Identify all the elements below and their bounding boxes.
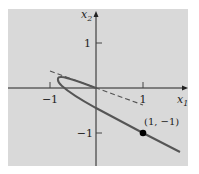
y-tick-label-1: 1 [84,37,91,50]
phase-plot: −1 1 1 −1 x2 x1 (1, −1) [0,0,199,174]
y-tick-label-neg1: −1 [77,127,93,140]
x-tick-label-neg1: −1 [42,93,58,106]
point-label: (1, −1) [144,116,179,127]
point-marker [140,130,147,137]
